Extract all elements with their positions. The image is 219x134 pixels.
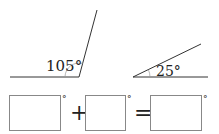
degree-mark-1: ° <box>62 94 67 104</box>
equals-sign: = <box>134 100 152 125</box>
angle-25: 25° <box>133 44 208 79</box>
angle-label-25: 25° <box>156 63 181 79</box>
degree-mark-2: ° <box>127 94 132 104</box>
equation: ° + ° = ° <box>10 94 208 131</box>
answer-box-1[interactable] <box>10 96 61 131</box>
answer-box-3[interactable] <box>151 96 202 131</box>
angle-label-105: 105° <box>46 57 82 75</box>
answer-box-2[interactable] <box>86 96 126 131</box>
diagram: 105° 25° ° + ° = ° <box>0 0 219 134</box>
degree-mark-3: ° <box>203 94 208 104</box>
angle-105: 105° <box>10 10 97 77</box>
